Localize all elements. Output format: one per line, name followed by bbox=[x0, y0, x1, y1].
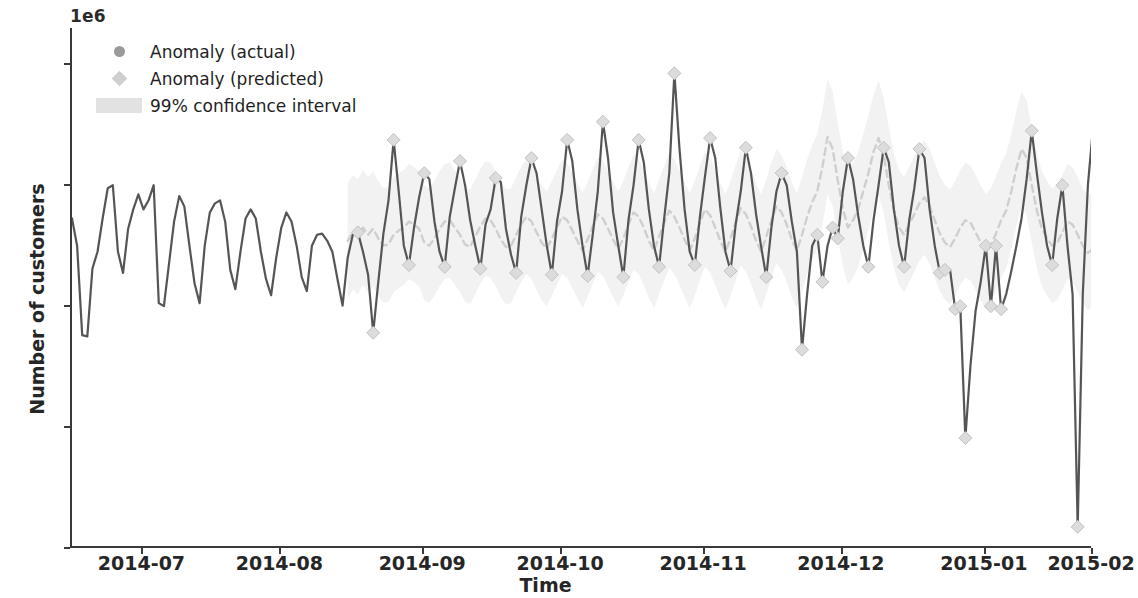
legend-label: 99% confidence interval bbox=[150, 96, 356, 116]
y-axis-offset-label: 1e6 bbox=[70, 6, 106, 26]
x-tick-mark bbox=[279, 548, 281, 554]
y-tick-mark bbox=[64, 547, 70, 549]
legend-item: 99% confidence interval bbox=[88, 92, 356, 119]
x-tick-mark bbox=[422, 548, 424, 554]
legend-item: Anomaly (predicted) bbox=[88, 65, 356, 92]
x-tick-mark bbox=[984, 548, 986, 554]
y-axis-title: Number of customers bbox=[26, 99, 48, 499]
x-tick-mark bbox=[703, 548, 705, 554]
x-tick-mark bbox=[1091, 548, 1093, 554]
x-tick-label: 2015-02 bbox=[991, 552, 1138, 574]
x-tick-mark bbox=[141, 548, 143, 554]
x-tick-mark bbox=[841, 548, 843, 554]
legend-label: Anomaly (actual) bbox=[150, 42, 296, 62]
y-tick-mark bbox=[64, 426, 70, 428]
y-tick-mark bbox=[64, 63, 70, 65]
legend-band-icon bbox=[96, 98, 142, 113]
legend-key bbox=[88, 98, 150, 113]
legend-circle-icon bbox=[114, 46, 125, 57]
chart-legend: Anomaly (actual)Anomaly (predicted)99% c… bbox=[82, 32, 370, 127]
x-tick-mark bbox=[560, 548, 562, 554]
y-tick-mark bbox=[64, 305, 70, 307]
legend-key bbox=[88, 73, 150, 84]
legend-item: Anomaly (actual) bbox=[88, 38, 356, 65]
legend-label: Anomaly (predicted) bbox=[150, 69, 324, 89]
legend-diamond-icon bbox=[111, 71, 127, 87]
legend-key bbox=[88, 46, 150, 57]
x-axis-title: Time bbox=[0, 574, 1091, 596]
y-tick-mark bbox=[64, 184, 70, 186]
